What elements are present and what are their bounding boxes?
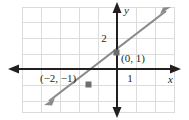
point-marker-0-1 (114, 50, 120, 56)
line-arrow-end (160, 7, 171, 14)
point-marker-neg2-neg1 (86, 82, 92, 88)
coordinate-plane-figure: y x 2 1 (0, 1) (−2, −1) (0, 0, 189, 120)
point-label-neg2-neg1: (−2, −1) (40, 72, 77, 85)
graph-canvas: y x 2 1 (0, 1) (−2, −1) (0, 0, 189, 120)
y-axis-label: y (123, 4, 129, 16)
plotted-line (44, 7, 171, 106)
x-axis-label: x (167, 73, 173, 85)
point-label-0-1: (0, 1) (121, 52, 145, 65)
x-axis-arrow-left (8, 65, 19, 74)
x-tick-label-1: 1 (127, 72, 133, 84)
y-tick-label-2: 2 (101, 32, 107, 44)
